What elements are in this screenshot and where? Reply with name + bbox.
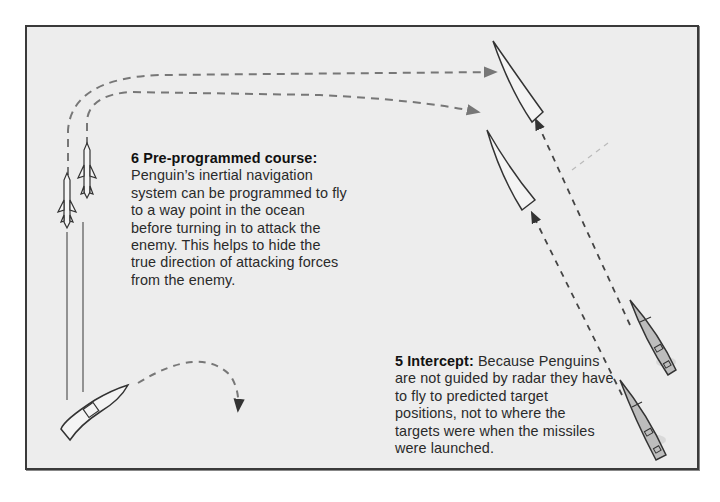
caption-6-line: from the enemy.: [131, 272, 371, 289]
launch-boat: [60, 384, 128, 440]
caption-5-first-line: 5 Intercept: Because Penguins: [395, 353, 625, 370]
faint-path: [572, 140, 612, 170]
caption-pre-programmed-course: 6 Pre-programmed course: Penguin’s inert…: [131, 150, 371, 289]
caption-5-title: 5 Intercept:: [395, 353, 474, 369]
actual-target-ship-1: [630, 300, 676, 375]
caption-5-line: are not guided by radar they have: [395, 370, 625, 387]
caption-5-line: were launched.: [395, 440, 625, 457]
caption-6-line: true direction of attacking forces: [131, 254, 371, 271]
predicted-target-ship-2: [487, 130, 535, 210]
boat-turn-path: [138, 362, 238, 410]
caption-5-first-line-rest: Because Penguins: [474, 353, 600, 369]
caption-6-line: Penguin’s inertial navigation: [131, 167, 371, 184]
target-track-1: [536, 120, 630, 325]
penguin-missile-1: [58, 173, 76, 228]
launch-trails: [67, 222, 83, 400]
caption-6-line: before turning in to attack the: [131, 220, 371, 237]
caption-6-line: to a way point in the ocean: [131, 202, 371, 219]
caption-intercept: 5 Intercept: Because Penguins are not gu…: [395, 353, 625, 457]
caption-6-line: system can be programmed to fly: [131, 185, 371, 202]
caption-6-title: 6 Pre-programmed course:: [131, 150, 371, 167]
flight-path-inner: [87, 92, 478, 145]
caption-5-line: positions, not to where the: [395, 405, 625, 422]
caption-5-line: to fly to predicted target: [395, 388, 625, 405]
caption-5-line: targets were when the missiles: [395, 423, 625, 440]
penguin-missile-2: [78, 143, 96, 198]
actual-target-ship-2: [620, 380, 666, 460]
predicted-target-ship-1: [493, 41, 543, 122]
caption-6-line: enemy. This helps to hide the: [131, 237, 371, 254]
